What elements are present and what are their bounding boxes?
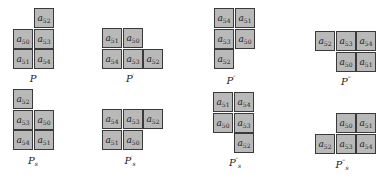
grid-cell: a53 xyxy=(214,29,234,49)
cell-subscript: 53 xyxy=(22,119,30,126)
cell-subscript: 51 xyxy=(244,17,252,24)
cell-subscript: 50 xyxy=(345,61,353,68)
grid-cell: a53 xyxy=(123,49,143,69)
cell-subscript: 51 xyxy=(111,37,119,44)
grid-cell: a54 xyxy=(214,8,234,28)
cell-subscript: 52 xyxy=(22,98,30,105)
grid-cell: a51 xyxy=(235,8,255,28)
grid-cell: a53 xyxy=(123,109,143,129)
cell-subscript: 53 xyxy=(223,38,231,45)
label-base: P xyxy=(336,159,343,170)
cell-subscript: 53 xyxy=(345,143,353,150)
cell-subscript: 54 xyxy=(223,17,231,24)
cell-subscript: 51 xyxy=(222,101,230,108)
cell-subscript: 53 xyxy=(43,38,51,45)
polyomino-label: P‴s xyxy=(336,159,349,170)
grid-cell: a52 xyxy=(13,89,33,109)
grid-cell: a51 xyxy=(34,130,54,150)
cell-subscript: 52 xyxy=(223,58,231,65)
label-base: P xyxy=(341,76,348,87)
grid-cell: a51 xyxy=(102,130,122,150)
cell-subscript: 52 xyxy=(243,142,251,149)
polyomino-label: P″ xyxy=(227,75,236,86)
cell-subscript: 51 xyxy=(43,139,51,146)
grid-cell: a50 xyxy=(336,52,356,72)
cell-subscript: 50 xyxy=(22,38,30,45)
grid-cell: a53 xyxy=(234,113,254,133)
grid-cell: a51 xyxy=(102,28,122,48)
cell-subscript: 50 xyxy=(132,139,140,146)
cell-subscript: 53 xyxy=(345,40,353,47)
grid-cell: a53 xyxy=(336,134,356,154)
cell-subscript: 54 xyxy=(43,58,51,65)
grid-cell: a50 xyxy=(123,28,143,48)
cell-subscript: 54 xyxy=(243,101,251,108)
label-base: P xyxy=(227,75,234,86)
grid-cell: a50 xyxy=(34,110,54,130)
grid-cell: a52 xyxy=(34,8,54,28)
cell-subscript: 50 xyxy=(132,37,140,44)
grid-cell: a52 xyxy=(214,49,234,69)
polyomino-label: P xyxy=(30,73,37,84)
grid-cell: a54 xyxy=(234,92,254,112)
cell-subscript: 52 xyxy=(324,143,332,150)
label-prime: ″ xyxy=(233,74,235,81)
cell-subscript: 53 xyxy=(132,118,140,125)
cell-subscript: 53 xyxy=(243,122,251,129)
grid-cell: a52 xyxy=(234,133,254,153)
grid-cell: a54 xyxy=(34,49,54,69)
grid-cell: a51 xyxy=(13,49,33,69)
grid-cell: a51 xyxy=(356,52,376,72)
grid-cell: a53 xyxy=(13,110,33,130)
label-subscript: s xyxy=(133,160,136,167)
polyomino-label: P″s xyxy=(229,157,241,168)
grid-cell: a54 xyxy=(356,31,376,51)
cell-subscript: 50 xyxy=(43,119,51,126)
grid-cell: a53 xyxy=(34,29,54,49)
grid-cell: a52 xyxy=(143,49,163,69)
grid-cell: a52 xyxy=(315,134,335,154)
cell-subscript: 54 xyxy=(365,40,373,47)
cell-subscript: 51 xyxy=(365,122,373,129)
polyomino-label: P′ xyxy=(126,73,134,84)
cell-subscript: 50 xyxy=(222,122,230,129)
label-subscript: s xyxy=(345,164,348,171)
cell-subscript: 54 xyxy=(111,118,119,125)
polyomino-label: Ps xyxy=(28,155,38,166)
cell-subscript: 51 xyxy=(22,58,30,65)
cell-subscript: 52 xyxy=(324,40,332,47)
label-base: P xyxy=(229,157,236,168)
grid-cell: a53 xyxy=(336,31,356,51)
grid-cell: a54 xyxy=(102,49,122,69)
grid-cell: a50 xyxy=(213,113,233,133)
grid-cell: a54 xyxy=(102,109,122,129)
cell-subscript: 52 xyxy=(43,17,51,24)
grid-cell: a50 xyxy=(13,29,33,49)
label-base: P xyxy=(28,155,35,166)
cell-subscript: 50 xyxy=(345,122,353,129)
cell-subscript: 51 xyxy=(365,61,373,68)
cell-subscript: 53 xyxy=(132,58,140,65)
grid-cell: a51 xyxy=(356,113,376,133)
cell-subscript: 54 xyxy=(111,58,119,65)
label-subscript: s xyxy=(35,160,38,167)
grid-cell: a52 xyxy=(315,31,335,51)
grid-cell: a54 xyxy=(356,134,376,154)
grid-cell: a50 xyxy=(336,113,356,133)
cell-subscript: 54 xyxy=(365,143,373,150)
polyomino-label: P′s xyxy=(124,155,135,166)
grid-cell: a54 xyxy=(13,130,33,150)
polyomino-label: P‴ xyxy=(341,76,351,87)
grid-cell: a50 xyxy=(235,29,255,49)
cell-subscript: 52 xyxy=(152,118,160,125)
cell-subscript: 51 xyxy=(111,139,119,146)
cell-subscript: 50 xyxy=(244,38,252,45)
label-subscript: s xyxy=(238,162,241,169)
label-prime: ′ xyxy=(133,72,134,79)
label-base: P xyxy=(124,155,131,166)
grid-cell: a52 xyxy=(143,109,163,129)
cell-subscript: 54 xyxy=(22,139,30,146)
cell-subscript: 52 xyxy=(152,58,160,65)
grid-cell: a50 xyxy=(123,130,143,150)
label-prime: ‴ xyxy=(348,75,351,82)
